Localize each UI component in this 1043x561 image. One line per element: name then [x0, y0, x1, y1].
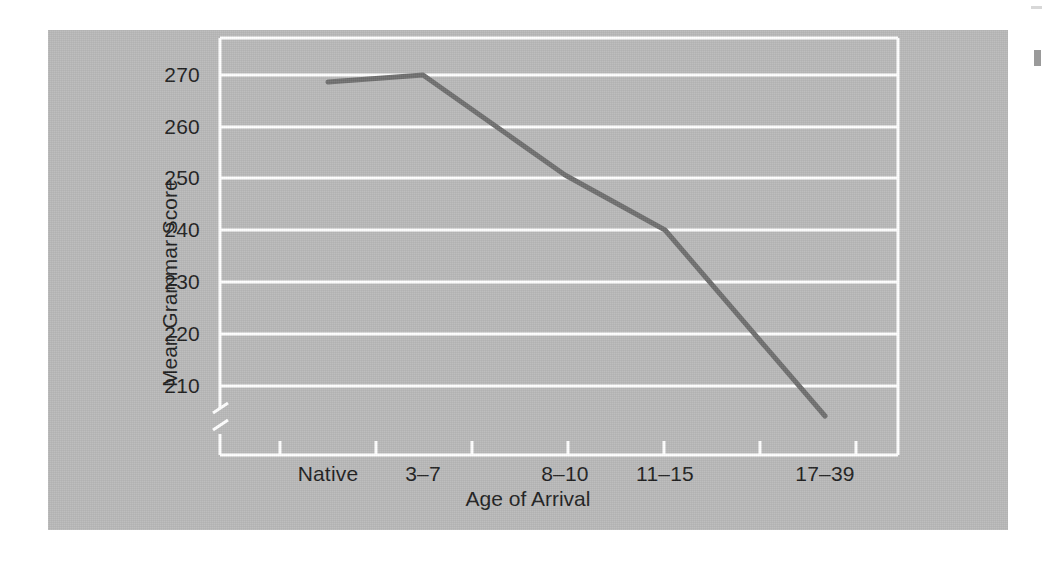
x-axis-title: Age of Arrival	[48, 487, 1008, 511]
x-tick-label-17-39: 17–39	[767, 462, 883, 486]
line-chart: 270 260 250 240 230 220 210 Native 3–7 8…	[48, 30, 1008, 530]
scan-artifact-right	[1034, 50, 1041, 66]
x-tick-label-3-7: 3–7	[365, 462, 481, 486]
figure-panel: 270 260 250 240 230 220 210 Native 3–7 8…	[48, 30, 1008, 530]
page-background: 270 260 250 240 230 220 210 Native 3–7 8…	[0, 0, 1043, 561]
plot-frame	[220, 38, 898, 455]
y-tick-label-240: 240	[88, 218, 200, 242]
scan-artifact-top	[1031, 6, 1042, 9]
x-tick-label-8-10: 8–10	[507, 462, 623, 486]
y-axis-break-symbol	[213, 403, 228, 430]
y-tick-label-270: 270	[88, 63, 200, 87]
y-tick-label-210: 210	[88, 374, 200, 398]
x-tick-label-11-15: 11–15	[607, 462, 723, 486]
y-tick-label-220: 220	[88, 322, 200, 346]
y-tick-label-250: 250	[88, 166, 200, 190]
y-axis-title: Mean Grammar Score	[158, 179, 182, 387]
gridlines	[220, 75, 898, 386]
y-tick-label-260: 260	[88, 115, 200, 139]
y-tick-label-230: 230	[88, 270, 200, 294]
x-axis-ticks	[280, 441, 856, 455]
